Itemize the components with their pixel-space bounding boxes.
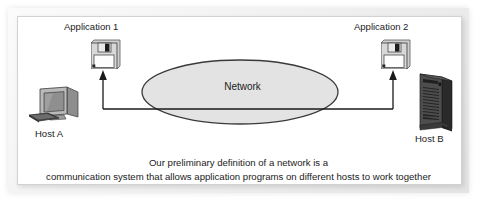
- host-b-label: Host B: [415, 133, 444, 144]
- figure-root: Application 1 Application 2 Network: [0, 0, 485, 209]
- floppy-disk-icon-app1: [91, 38, 121, 69]
- application-1-label: Application 1: [64, 21, 118, 32]
- host-a-label: Host A: [35, 128, 63, 139]
- caption: Our preliminary definition of a network …: [20, 156, 457, 184]
- desktop-computer-icon: [26, 83, 82, 127]
- application-2-label: Application 2: [354, 21, 408, 32]
- tower-server-icon: [414, 72, 456, 133]
- floppy-disk-icon-app2: [381, 38, 411, 69]
- caption-line-1: Our preliminary definition of a network …: [20, 156, 457, 170]
- network-ellipse: [142, 60, 338, 124]
- arrow-up-icon-right: [389, 70, 397, 80]
- caption-line-2: communication system that allows applica…: [20, 170, 457, 184]
- arrow-up-icon-left: [99, 70, 107, 80]
